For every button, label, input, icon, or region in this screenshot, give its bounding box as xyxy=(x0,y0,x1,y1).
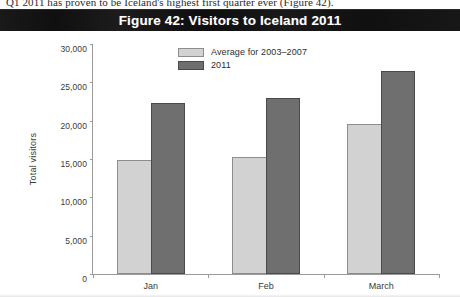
x-tick-mark xyxy=(208,274,209,278)
x-tick-label: March xyxy=(369,281,394,291)
y-tick-label: 15,000 xyxy=(60,159,93,169)
bar-jan-current[interactable] xyxy=(151,103,185,274)
x-tick-label: Jan xyxy=(143,281,158,291)
legend-swatch xyxy=(178,48,204,57)
y-tick-label: 30,000 xyxy=(60,44,93,54)
y-tick-label: 5,000 xyxy=(65,236,93,246)
y-axis-title-text: Total visitors xyxy=(28,133,38,185)
bar-group: Jan xyxy=(93,44,208,274)
bar-feb-current[interactable] xyxy=(266,98,300,274)
plot-area: 05,00010,00015,00020,00025,00030,000 Jan… xyxy=(92,44,439,275)
chart-legend: Average for 2003–20072011 xyxy=(178,47,307,70)
bar-march-average[interactable] xyxy=(347,124,381,274)
legend-label: Average for 2003–2007 xyxy=(211,47,307,57)
y-tick-label: 10,000 xyxy=(60,197,93,207)
legend-item[interactable]: 2011 xyxy=(178,60,307,70)
legend-swatch xyxy=(178,61,204,70)
x-tick-mark xyxy=(324,274,325,278)
x-tick-mark xyxy=(439,274,440,278)
bar-feb-average[interactable] xyxy=(232,157,266,274)
y-axis-title: Total visitors xyxy=(26,44,40,274)
chart-container: Total visitors 05,00010,00015,00020,0002… xyxy=(0,31,460,297)
figure-title: Figure 42: Visitors to Iceland 2011 xyxy=(119,13,342,28)
figure-title-bar: Figure 42: Visitors to Iceland 2011 xyxy=(0,10,460,31)
legend-item[interactable]: Average for 2003–2007 xyxy=(178,47,307,57)
y-tick-label: 0 xyxy=(82,274,93,284)
y-tick-label: 25,000 xyxy=(60,82,93,92)
bar-group: Feb xyxy=(208,44,323,274)
x-tick-label: Feb xyxy=(258,281,274,291)
bar-jan-average[interactable] xyxy=(117,160,151,274)
x-tick-mark xyxy=(93,274,94,278)
bar-group: March xyxy=(324,44,439,274)
page-body-text: Q1 2011 has proven to be Iceland's highe… xyxy=(6,0,454,8)
bar-march-current[interactable] xyxy=(381,71,415,274)
y-tick-label: 20,000 xyxy=(60,121,93,131)
bar-groups: JanFebMarch xyxy=(93,44,439,274)
legend-label: 2011 xyxy=(211,60,231,70)
